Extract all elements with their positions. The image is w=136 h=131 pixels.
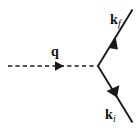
- feynman-diagram: q kf ki: [0, 0, 136, 131]
- final-momentum-label: kf: [110, 11, 121, 29]
- initial-momentum-arrowhead-icon: [107, 85, 120, 97]
- final-momentum-arrowhead-icon: [109, 37, 118, 50]
- final-momentum-symbol: k: [110, 12, 118, 27]
- momentum-transfer-label: q: [51, 43, 59, 59]
- initial-momentum-subscript: i: [113, 113, 116, 124]
- initial-momentum-symbol: k: [105, 107, 113, 122]
- momentum-transfer-symbol: q: [51, 44, 59, 59]
- final-momentum-subscript: f: [118, 18, 121, 29]
- initial-momentum-label: ki: [105, 106, 116, 124]
- momentum-transfer-arrowhead-icon: [55, 61, 64, 71]
